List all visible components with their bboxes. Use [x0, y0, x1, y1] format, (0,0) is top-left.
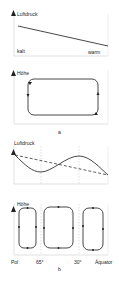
axis-arrow-icon	[11, 70, 16, 76]
cold-label: kalt	[17, 48, 25, 54]
warm-label: warm	[88, 49, 100, 55]
axis-arrow-icon	[11, 10, 16, 16]
panel-b-circulation-cells	[11, 204, 108, 255]
caption-a: a	[58, 129, 61, 135]
panel-a-circulation	[11, 70, 108, 124]
hadley-cell	[83, 208, 103, 250]
axis-arrow-icon	[11, 149, 16, 155]
panel-b-pressure-chart	[11, 146, 108, 184]
height-axis-label: Höhe	[17, 70, 29, 76]
x-label-30: 30°	[74, 259, 82, 265]
height-axis-label-b: Höhe	[17, 201, 29, 207]
mean-pressure-line	[15, 155, 108, 175]
x-label-equator: Äquator	[95, 259, 113, 265]
caption-b: b	[58, 266, 61, 272]
pressure-line	[18, 26, 108, 46]
ferrel-cell	[44, 207, 73, 248]
pressure-axis-label-b: Luftdruck	[14, 140, 35, 146]
x-label-65: 65°	[36, 259, 44, 265]
axis-arrow-icon	[11, 206, 16, 212]
pressure-axis-label: Luftdruck	[17, 11, 38, 17]
polar-cell	[19, 208, 36, 248]
circulation-loop	[28, 79, 98, 115]
x-label-pole: Pol	[11, 259, 18, 265]
